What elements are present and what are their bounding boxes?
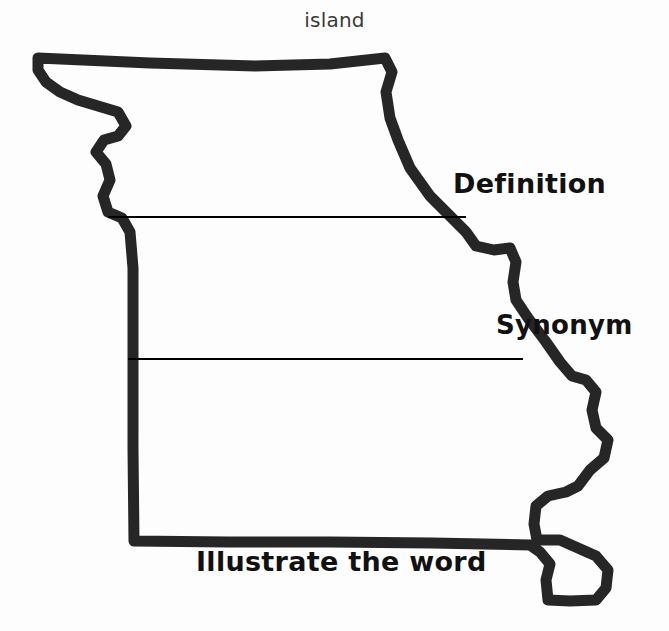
section-label-illustrate: Illustrate the word xyxy=(196,546,487,577)
vocabulary-word-title: island xyxy=(0,8,669,32)
section-label-synonym: Synonym xyxy=(496,310,633,340)
word-map-worksheet: island Definition Synonym Illustrate the… xyxy=(0,0,669,631)
section-label-definition: Definition xyxy=(453,168,606,199)
